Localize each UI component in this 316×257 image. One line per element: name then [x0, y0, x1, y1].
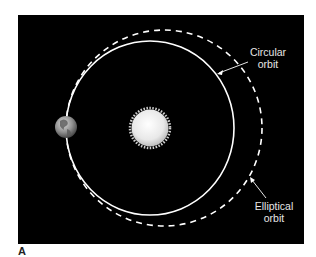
panel-letter: A [18, 245, 26, 257]
elliptical-orbit-label-line1: Elliptical [251, 200, 297, 212]
elliptical-orbit-pointer [250, 177, 266, 198]
elliptical-orbit-label: Elliptical orbit [251, 200, 297, 224]
sun-icon [130, 108, 170, 148]
circular-orbit-label: Circular orbit [248, 46, 288, 70]
circular-orbit-label-line2: orbit [248, 58, 288, 70]
earth-icon [55, 116, 77, 138]
circular-orbit-label-line1: Circular [248, 46, 288, 58]
elliptical-orbit-label-line2: orbit [251, 212, 297, 224]
circular-orbit-pointer [217, 62, 248, 75]
